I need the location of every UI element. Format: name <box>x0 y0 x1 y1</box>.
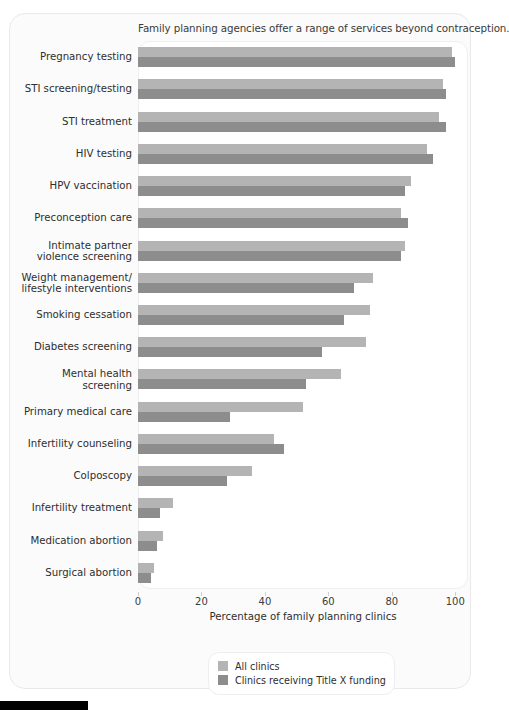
bar-title-x <box>138 122 446 132</box>
bar-title-x <box>138 347 322 357</box>
category-label: STI screening/testing <box>14 84 132 96</box>
x-axis: Percentage of family planning clinics 02… <box>138 592 468 632</box>
legend-item[interactable]: Clinics receiving Title X funding <box>218 673 385 687</box>
bar-row: Medication abortion <box>10 525 472 557</box>
bar-rows-container: Pregnancy testingSTI screening/testingST… <box>10 41 472 589</box>
x-axis-label: Percentage of family planning clinics <box>138 611 468 622</box>
chart-legend: All clinicsClinics receiving Title X fun… <box>208 652 395 695</box>
bar-title-x <box>138 251 401 261</box>
bar-row: Infertility counseling <box>10 428 472 460</box>
bar-row: Diabetes screening <box>10 331 472 363</box>
bar-row: HIV testing <box>10 138 472 170</box>
x-axis-tick-label: 80 <box>385 596 398 607</box>
category-label: Pregnancy testing <box>14 51 132 63</box>
bar-all-clinics <box>138 434 274 444</box>
bar-title-x <box>138 541 157 551</box>
bar-title-x <box>138 218 408 228</box>
bottom-marker-bar <box>0 701 88 710</box>
bar-group <box>138 170 468 202</box>
bar-row: Preconception care <box>10 202 472 234</box>
bar-group <box>138 73 468 105</box>
bar-all-clinics <box>138 531 163 541</box>
bar-group <box>138 492 468 524</box>
bar-group <box>138 396 468 428</box>
legend-label: Clinics receiving Title X funding <box>235 675 386 686</box>
category-label: Primary medical care <box>14 406 132 418</box>
bar-group <box>138 363 468 395</box>
category-label: Infertility treatment <box>14 503 132 515</box>
x-axis-tick-label: 60 <box>322 596 335 607</box>
bar-title-x <box>138 154 433 164</box>
bar-title-x <box>138 412 230 422</box>
bar-row: Pregnancy testing <box>10 41 472 73</box>
category-label: Weight management/lifestyle intervention… <box>14 271 132 294</box>
x-axis-tick-label: 40 <box>259 596 272 607</box>
chart-title: Family planning agencies offer a range o… <box>138 22 483 34</box>
bar-all-clinics <box>138 337 366 347</box>
category-label: Infertility counseling <box>14 438 132 450</box>
bar-row: HPV vaccination <box>10 170 472 202</box>
legend-label: All clinics <box>235 661 280 672</box>
category-label: Intimate partnerviolence screening <box>14 239 132 262</box>
bar-all-clinics <box>138 273 373 283</box>
bar-title-x <box>138 508 160 518</box>
category-label: Mental healthscreening <box>14 368 132 391</box>
bar-group <box>138 41 468 73</box>
bar-group <box>138 331 468 363</box>
bar-all-clinics <box>138 176 411 186</box>
category-label: Preconception care <box>14 213 132 225</box>
x-axis-tick-label: 100 <box>446 596 465 607</box>
category-label: HIV testing <box>14 148 132 160</box>
bar-all-clinics <box>138 144 427 154</box>
bar-title-x <box>138 186 405 196</box>
bar-all-clinics <box>138 563 154 573</box>
x-axis-tick-label: 0 <box>135 596 141 607</box>
bar-all-clinics <box>138 305 370 315</box>
bar-all-clinics <box>138 241 405 251</box>
category-label: Medication abortion <box>14 535 132 547</box>
bar-row: Surgical abortion <box>10 557 472 589</box>
bar-group <box>138 557 468 589</box>
bar-group <box>138 138 468 170</box>
bar-title-x <box>138 379 306 389</box>
bar-all-clinics <box>138 369 341 379</box>
bar-title-x <box>138 57 455 67</box>
bar-title-x <box>138 444 284 454</box>
bar-group <box>138 460 468 492</box>
legend-swatch-icon <box>218 661 228 671</box>
bar-group <box>138 428 468 460</box>
bar-all-clinics <box>138 498 173 508</box>
bar-row: STI screening/testing <box>10 73 472 105</box>
category-label: HPV vaccination <box>14 180 132 192</box>
bar-title-x <box>138 89 446 99</box>
bar-all-clinics <box>138 79 443 89</box>
bar-title-x <box>138 315 344 325</box>
bar-all-clinics <box>138 402 303 412</box>
bar-row: STI treatment <box>10 105 472 137</box>
bar-all-clinics <box>138 112 439 122</box>
bar-row: Primary medical care <box>10 396 472 428</box>
bar-row: Infertility treatment <box>10 492 472 524</box>
figure-card: Family planning agencies offer a range o… <box>9 13 471 689</box>
legend-swatch-icon <box>218 675 228 685</box>
bar-group <box>138 267 468 299</box>
legend-item[interactable]: All clinics <box>218 659 385 673</box>
x-axis-tick-label: 20 <box>195 596 208 607</box>
bar-all-clinics <box>138 47 452 57</box>
bar-group <box>138 299 468 331</box>
bar-group <box>138 234 468 266</box>
bar-title-x <box>138 476 227 486</box>
category-label: Diabetes screening <box>14 341 132 353</box>
category-label: STI treatment <box>14 116 132 128</box>
bar-group <box>138 105 468 137</box>
category-label: Smoking cessation <box>14 309 132 321</box>
bar-row: Colposcopy <box>10 460 472 492</box>
category-label: Colposcopy <box>14 470 132 482</box>
bar-row: Smoking cessation <box>10 299 472 331</box>
category-label: Surgical abortion <box>14 567 132 579</box>
bar-title-x <box>138 283 354 293</box>
bar-group <box>138 202 468 234</box>
bar-row: Mental healthscreening <box>10 363 472 395</box>
bar-row: Intimate partnerviolence screening <box>10 234 472 266</box>
bar-all-clinics <box>138 466 252 476</box>
